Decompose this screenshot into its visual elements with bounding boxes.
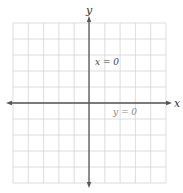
equation-y-equals-0: y = 0 — [112, 107, 137, 117]
coordinate-plane-figure: x y x = 0 y = 0 — [0, 0, 183, 193]
y-axis-label: y — [85, 4, 93, 17]
x-axis-arrow-right-icon — [166, 101, 172, 105]
axes — [6, 16, 172, 188]
y-axis-arrow-down-icon — [87, 182, 91, 188]
equation-x-equals-0: x = 0 — [95, 57, 119, 67]
x-axis-arrow-left-icon — [6, 101, 12, 105]
x-axis-label: x — [174, 97, 181, 110]
